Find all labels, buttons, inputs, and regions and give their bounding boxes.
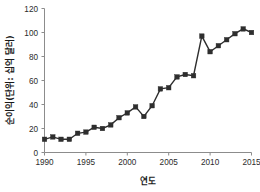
data-point-marker [75,131,80,136]
data-point-marker [125,111,130,116]
x-axis-title: 연도 [140,176,156,186]
data-point-marker [100,126,105,131]
x-tick-label: 2005 [160,158,179,167]
data-point-marker [150,103,155,108]
data-point-marker [117,115,122,120]
y-tick-label: 120 [24,5,38,14]
x-tick-label: 2015 [242,158,260,167]
data-point-marker [166,85,171,90]
data-point-marker [224,37,229,42]
y-tick-label: 40 [29,101,39,110]
data-point-marker [84,130,89,135]
y-tick-label: 20 [29,125,39,134]
x-tick-label: 1990 [35,158,54,167]
data-point-marker [67,137,72,142]
data-point-marker [50,135,55,140]
data-point-marker [200,34,205,39]
data-point-marker [191,73,196,78]
data-point-marker [233,31,238,36]
data-point-marker [241,27,246,32]
data-point-marker [183,72,188,77]
line-chart-plot: 순이익(단위: 십억 달러) 연도 0 20 40 60 80 100 120 [0,0,260,192]
y-axis-title: 순이익(단위: 십억 달러) [4,35,15,124]
data-point-marker [175,75,180,80]
y-tick-label: 80 [29,53,39,62]
data-point-marker [133,105,138,110]
y-tick-label: 60 [29,77,39,86]
y-axis-ticks: 0 20 40 60 80 100 120 [24,5,44,158]
data-point-marker [249,30,254,35]
data-point-marker [42,137,47,142]
x-axis-ticks: 1990 1995 2000 2005 2010 2015 [35,153,260,168]
y-tick-label: 0 [33,149,38,158]
data-point-marker [59,137,64,142]
x-tick-label: 1995 [77,158,96,167]
data-series [42,27,254,142]
data-point-marker [216,43,221,48]
chart-container: 순이익(단위: 십억 달러) 연도 0 20 40 60 80 100 120 [0,0,260,192]
data-point-marker [92,125,97,130]
y-tick-label: 100 [24,29,38,38]
data-point-marker [208,49,213,54]
data-point-marker [158,87,163,92]
x-tick-label: 2000 [118,158,137,167]
data-point-marker [108,123,113,128]
x-tick-label: 2010 [201,158,220,167]
data-point-marker [142,114,147,119]
